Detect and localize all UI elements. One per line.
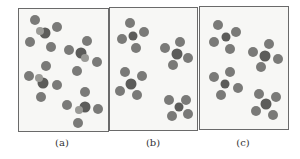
panel-a-label: (a) — [47, 137, 77, 148]
panel-c — [199, 6, 289, 130]
panel-a — [18, 8, 109, 132]
panel-b — [109, 7, 198, 131]
molecules-random — [19, 9, 110, 133]
molecules-clustered-alt — [200, 7, 290, 131]
molecules-clustered — [110, 8, 199, 132]
panel-c-label: (c) — [228, 137, 258, 148]
panel-b-label: (b) — [138, 137, 168, 148]
